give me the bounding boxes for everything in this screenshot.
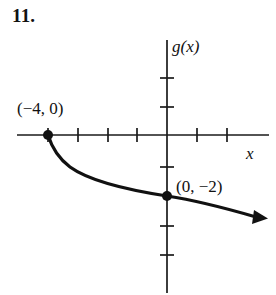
y-axis-label: g(x) [172,38,199,55]
point-label-minus4-0: (−4, 0) [17,100,63,117]
point-label-0-minus2: (0, −2) [176,178,222,195]
x-axis-label: x [246,145,254,162]
data-point-marker-a [43,130,53,140]
graph-canvas [0,0,276,295]
figure-container: 11. g(x) x [0,0,276,295]
data-point-marker-b [162,191,172,201]
function-curve [48,135,256,217]
curve-arrowhead [252,210,268,224]
